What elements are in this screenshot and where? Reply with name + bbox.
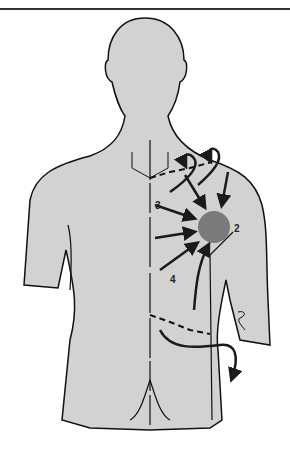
label-4: 4	[170, 274, 176, 285]
label-2: 2	[234, 223, 240, 234]
pain-focus-circle	[198, 211, 230, 243]
label-3: 3	[155, 200, 161, 211]
torso-diagram	[0, 0, 290, 466]
